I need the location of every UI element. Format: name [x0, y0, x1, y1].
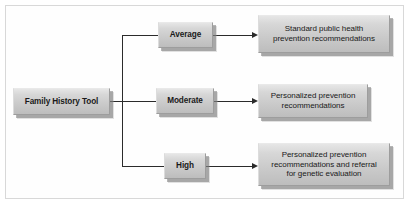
- recommendation-line-3: for genetic evaluation: [283, 169, 366, 179]
- node-risk-average[interactable]: Average: [158, 22, 213, 48]
- connector-trunk-to-average: [122, 35, 158, 36]
- recommendation-line-2: recommendations and referral: [267, 160, 380, 170]
- node-recommendation-moderate[interactable]: Personalized prevention recommendations: [258, 84, 368, 118]
- node-recommendation-high[interactable]: Personalized prevention recommendations …: [258, 143, 390, 186]
- node-label: Moderate: [163, 96, 207, 106]
- recommendation-line-2: recommendations: [278, 101, 349, 111]
- recommendation-line-2: prevention recommendations: [269, 34, 379, 44]
- node-label: Average: [166, 30, 205, 40]
- node-family-history-tool[interactable]: Family History Tool: [13, 88, 110, 115]
- diagram-canvas: Family History Tool Average Moderate Hig…: [0, 0, 410, 205]
- node-risk-high[interactable]: High: [164, 153, 206, 179]
- recommendation-line-1: Standard public health: [281, 24, 368, 34]
- node-label: High: [172, 161, 198, 171]
- recommendation-line-1: Personalized prevention: [278, 150, 371, 160]
- node-label: Family History Tool: [21, 97, 102, 107]
- recommendation-line-1: Personalized prevention: [267, 91, 360, 101]
- node-risk-moderate[interactable]: Moderate: [156, 88, 214, 114]
- connector-trunk-to-high: [122, 166, 164, 167]
- connector-trunk-to-moderate: [122, 101, 156, 102]
- node-recommendation-average[interactable]: Standard public health prevention recomm…: [258, 15, 390, 53]
